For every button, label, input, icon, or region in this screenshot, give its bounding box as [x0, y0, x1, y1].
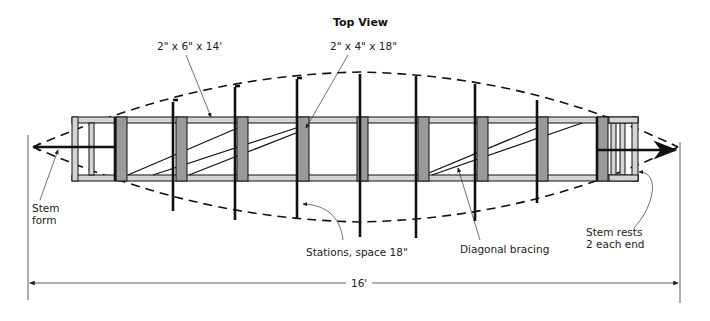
left-stem-rests — [72, 117, 94, 181]
stem-form-callout-line2: form — [32, 214, 56, 226]
leader-lines — [40, 55, 652, 240]
top-rail — [72, 117, 638, 123]
stem-form-callout-line1: Stem — [32, 202, 59, 214]
stem-rests-callout-line1: Stem rests — [586, 226, 642, 238]
stem-forms — [33, 147, 675, 150]
stem-rests-callout-line2: 2 each end — [586, 238, 644, 250]
stations-callout: Stations, space 18" — [306, 246, 408, 258]
rail-callout: 2" x 6" x 14' — [157, 40, 222, 52]
diagonal-bracing — [128, 123, 582, 175]
overall-length-label: 16' — [351, 277, 367, 289]
hull-outline — [33, 72, 678, 222]
crossmember-callout: 2" x 4" x 18" — [330, 40, 397, 52]
diagram-title: Top View — [333, 16, 388, 29]
bracing-callout: Diagonal bracing — [460, 243, 549, 255]
strongback-rails — [72, 117, 638, 181]
bottom-rail — [72, 175, 638, 181]
